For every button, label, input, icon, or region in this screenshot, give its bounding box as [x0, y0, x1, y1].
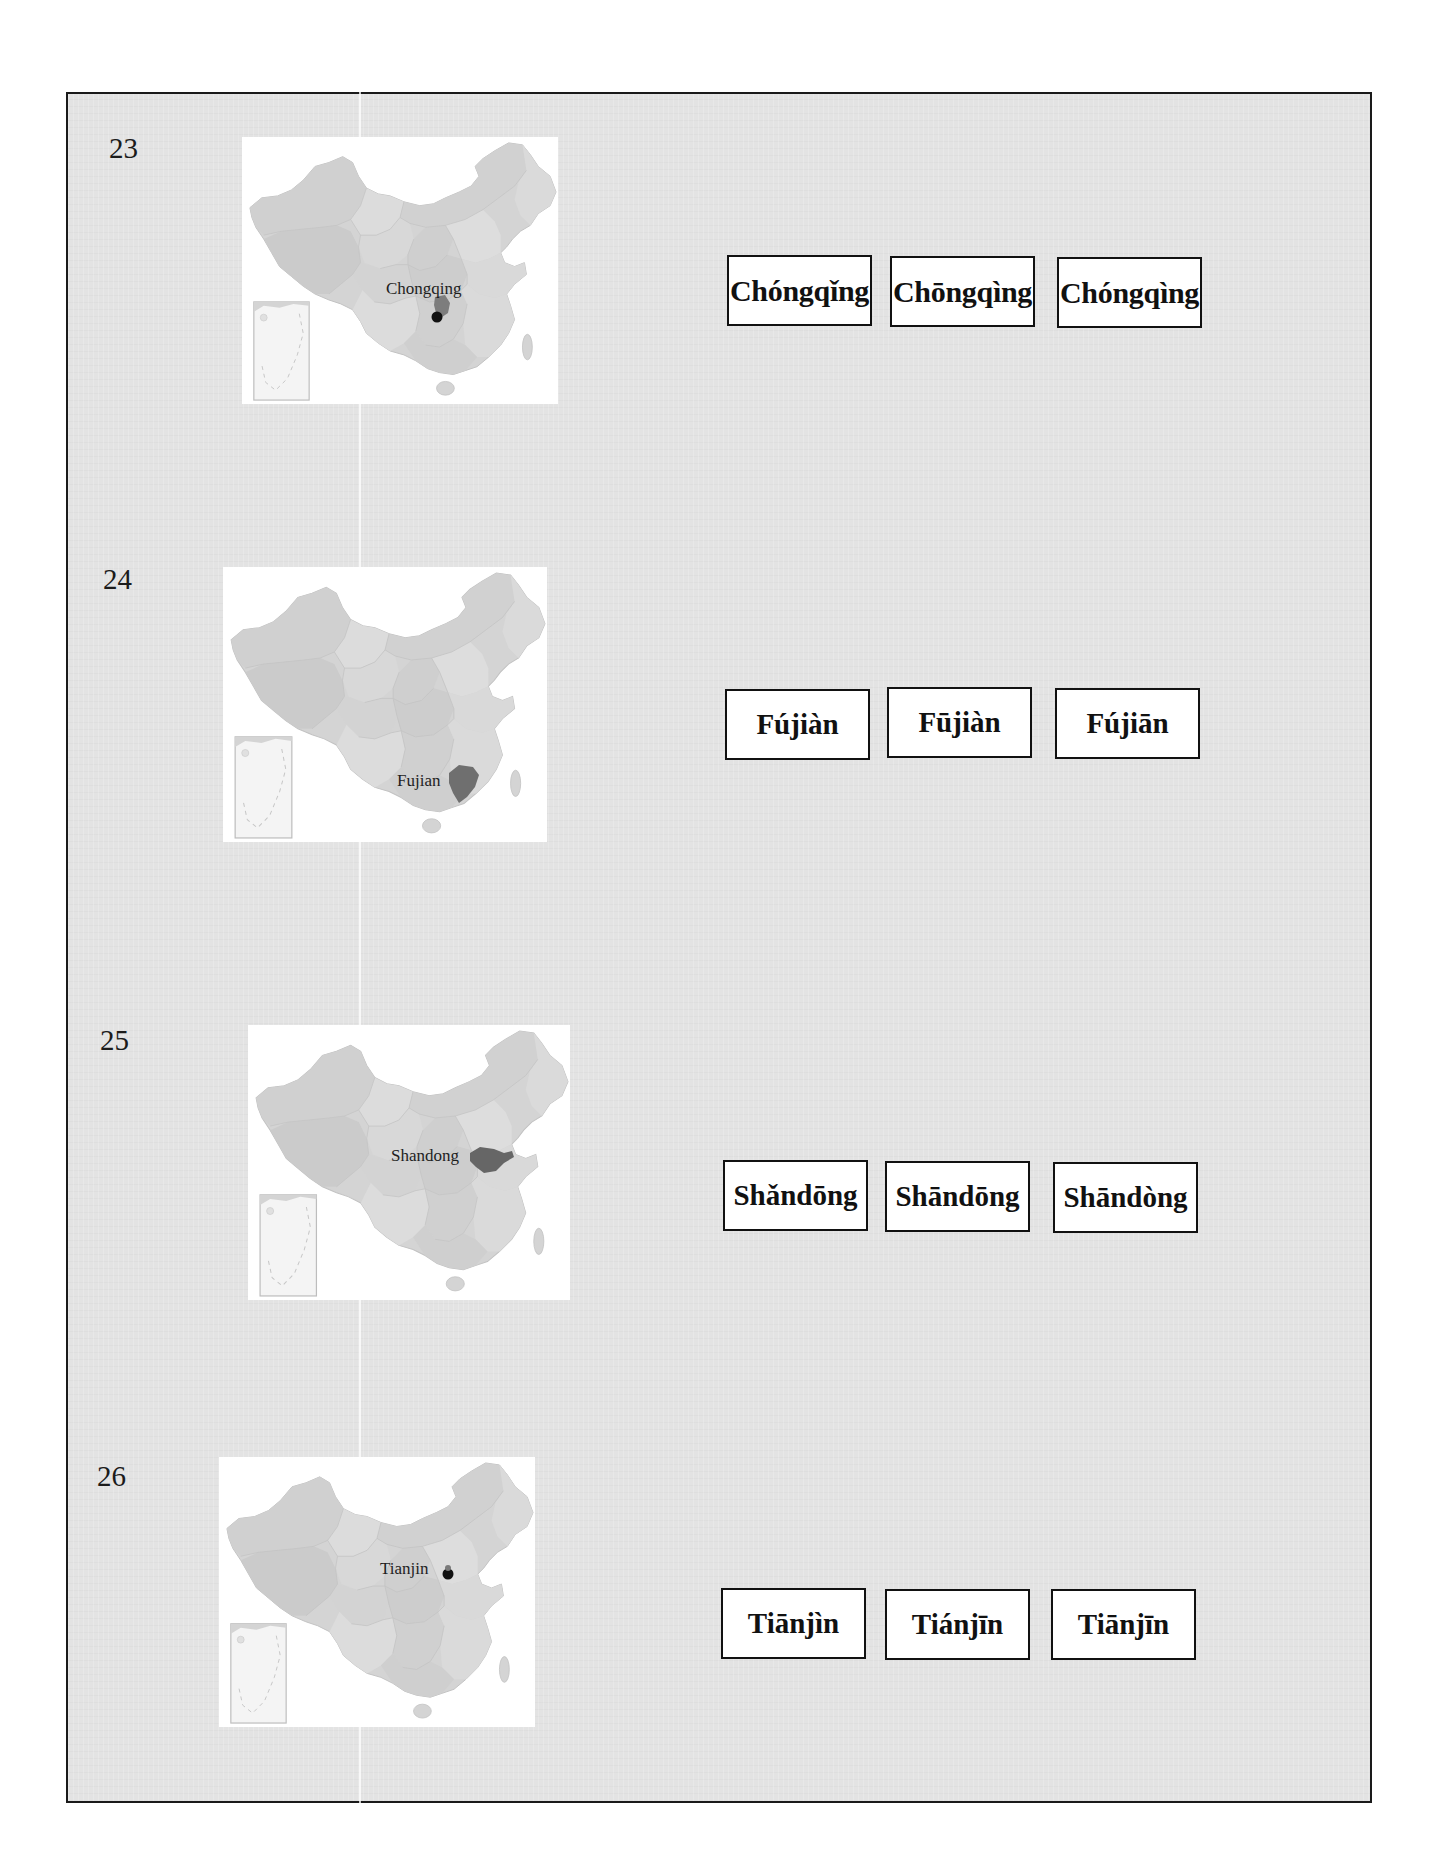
china-map-tianjin: Tianjin — [219, 1457, 535, 1727]
map-label: Chongqing — [386, 280, 462, 297]
map-label: Shandong — [391, 1147, 459, 1164]
china-map-chongqing: Chongqing — [242, 137, 558, 404]
choice-option-3[interactable]: Tiānjīn — [1051, 1589, 1196, 1660]
question-number: 24 — [103, 565, 132, 594]
china-map-fujian: Fujian — [223, 567, 547, 842]
highlight-marker — [219, 1457, 535, 1727]
choice-option-2[interactable]: Chōngqìng — [890, 256, 1035, 327]
choice-option-3[interactable]: Fújiān — [1055, 688, 1200, 759]
choice-option-1[interactable]: Chóngqǐng — [727, 255, 872, 326]
choice-option-3[interactable]: Chóngqìng — [1057, 257, 1202, 328]
choice-option-1[interactable]: Shǎndōng — [723, 1160, 868, 1231]
china-map-shandong: Shandong — [248, 1025, 570, 1300]
highlight-region — [223, 567, 547, 842]
question-number: 23 — [109, 134, 138, 163]
map-label: Fujian — [397, 772, 440, 789]
choice-option-2[interactable]: Fūjiàn — [887, 687, 1032, 758]
question-number: 25 — [100, 1026, 129, 1055]
map-label: Tianjin — [380, 1560, 429, 1577]
choice-option-1[interactable]: Tiānjìn — [721, 1588, 866, 1659]
highlight-region — [242, 137, 558, 404]
question-number: 26 — [97, 1462, 126, 1491]
choice-option-3[interactable]: Shāndòng — [1053, 1162, 1198, 1233]
choice-option-1[interactable]: Fújiàn — [725, 689, 870, 760]
choice-option-2[interactable]: Shāndōng — [885, 1161, 1030, 1232]
choice-option-2[interactable]: Tiánjīn — [885, 1589, 1030, 1660]
